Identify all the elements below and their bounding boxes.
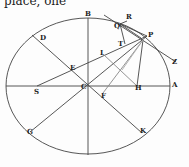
label-d: D	[40, 33, 46, 42]
label-k: K	[140, 126, 147, 135]
line-sp	[37, 36, 147, 86]
label-t: T	[118, 39, 124, 48]
label-q: Q	[114, 21, 120, 30]
label-r: R	[126, 12, 132, 21]
label-g: G	[27, 127, 33, 136]
diagram-figure: place, one B D R Q P T I E	[0, 0, 189, 167]
label-f: F	[101, 91, 106, 100]
label-b: B	[85, 9, 91, 18]
label-s: S	[34, 87, 39, 96]
line-qr	[120, 21, 127, 24]
label-z: Z	[172, 57, 177, 66]
diameter-gp	[30, 36, 147, 132]
label-e: E	[70, 63, 75, 72]
label-a: A	[171, 80, 178, 89]
ellipse-diagram: B D R Q P T I E Z A S C H F G K	[0, 0, 189, 167]
label-h: H	[135, 83, 142, 92]
diameter-dk	[32, 35, 142, 133]
label-p: P	[148, 30, 154, 39]
label-c: C	[81, 82, 87, 91]
label-i: I	[100, 48, 103, 57]
